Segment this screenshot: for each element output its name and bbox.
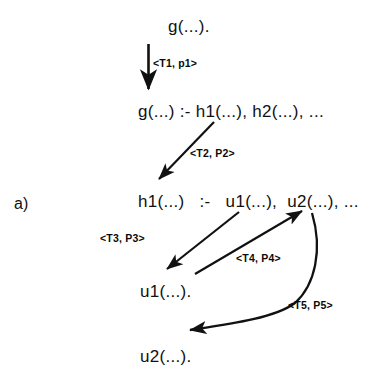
edge-label-t1: <T1, p1>: [153, 58, 197, 69]
panel-label-a: a): [14, 196, 28, 212]
node-goal: g(...).: [168, 18, 210, 35]
edge-t5-arrow: [190, 213, 317, 330]
edge-label-t2: <T2, P2>: [190, 148, 235, 159]
node-h1-clause: h1(...) :- u1(...), u2(...), ...: [138, 193, 359, 210]
edge-t3-arrow: [167, 212, 239, 269]
node-u2-fact: u2(...).: [140, 348, 192, 365]
figure-canvas: a) g(...). g(...) :- h1(...), h2(...), .…: [0, 0, 384, 375]
edge-label-t3: <T3, P3>: [100, 233, 145, 244]
edge-label-t5: <T5, P5>: [288, 300, 333, 311]
node-u1-fact: u1(...).: [140, 283, 192, 300]
node-g-clause: g(...) :- h1(...), h2(...), ...: [138, 103, 324, 120]
edge-t4-arrow: [195, 211, 302, 274]
edge-label-t4: <T4, P4>: [236, 253, 281, 264]
